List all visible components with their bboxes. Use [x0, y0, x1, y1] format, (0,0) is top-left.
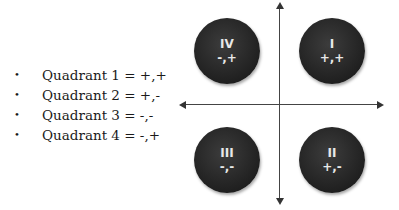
list-item-label: Quadrant 4 = -,+ — [42, 125, 160, 145]
bullet-icon: • — [14, 65, 26, 85]
quadrant-signs: -,+ — [217, 52, 237, 65]
quadrant-legend-list: • Quadrant 1 = +,+ • Quadrant 2 = +,- • … — [14, 65, 167, 145]
quadrant-iii-circle: III -,- — [194, 127, 260, 193]
x-axis-line — [186, 104, 378, 105]
arrow-right-icon — [377, 101, 384, 109]
y-axis-line — [279, 8, 280, 198]
arrow-up-icon — [276, 2, 284, 9]
list-item: • Quadrant 2 = +,- — [14, 85, 167, 105]
list-item-label: Quadrant 2 = +,- — [42, 85, 160, 105]
quadrant-i-circle: I +,+ — [299, 18, 365, 84]
list-item: • Quadrant 4 = -,+ — [14, 125, 167, 145]
quadrant-numeral: I — [330, 38, 334, 51]
bullet-icon: • — [14, 85, 26, 105]
bullet-icon: • — [14, 125, 26, 145]
arrow-left-icon — [179, 101, 186, 109]
quadrant-ii-circle: II +,- — [299, 127, 365, 193]
quadrant-signs: +,+ — [320, 52, 345, 65]
list-item-label: Quadrant 3 = -,- — [42, 105, 153, 125]
quadrant-numeral: III — [220, 147, 233, 160]
list-item: • Quadrant 3 = -,- — [14, 105, 167, 125]
list-item: • Quadrant 1 = +,+ — [14, 65, 167, 85]
quadrant-signs: -,- — [220, 161, 235, 174]
bullet-icon: • — [14, 105, 26, 125]
list-item-label: Quadrant 1 = +,+ — [42, 65, 167, 85]
quadrant-numeral: IV — [220, 38, 234, 51]
quadrant-numeral: II — [328, 147, 337, 160]
quadrant-iv-circle: IV -,+ — [194, 18, 260, 84]
arrow-down-icon — [276, 198, 284, 205]
quadrant-signs: +,- — [322, 161, 342, 174]
